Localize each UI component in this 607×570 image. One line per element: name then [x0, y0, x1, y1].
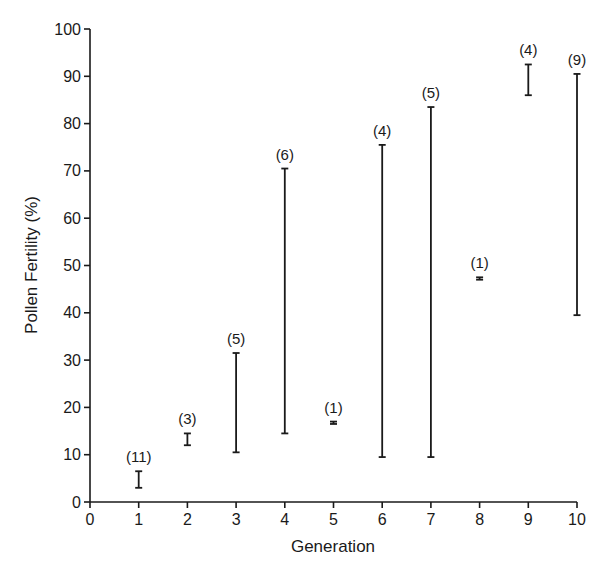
x-tick-label: 0	[86, 511, 95, 528]
range-bar: (4)	[373, 122, 391, 457]
y-tick-label: 80	[63, 115, 81, 132]
y-tick-label: 0	[72, 494, 81, 511]
x-tick-label: 10	[568, 511, 586, 528]
pollen-fertility-chart: 0102030405060708090100012345678910 (11)(…	[0, 0, 607, 570]
y-tick-label: 40	[63, 304, 81, 321]
range-bar: (9)	[568, 51, 586, 315]
range-bar: (3)	[178, 410, 196, 445]
sample-size-label: (1)	[324, 399, 342, 416]
y-tick-label: 90	[63, 68, 81, 85]
x-tick-label: 4	[280, 511, 289, 528]
sample-size-label: (4)	[519, 41, 537, 58]
sample-size-label: (11)	[126, 448, 152, 465]
x-axis-title: Generation	[291, 537, 375, 556]
range-bar: (1)	[470, 254, 488, 279]
sample-size-label: (9)	[568, 51, 586, 68]
sample-size-label: (5)	[227, 330, 245, 347]
y-tick-label: 50	[63, 257, 81, 274]
y-tick-label: 60	[63, 210, 81, 227]
y-axis-title: Pollen Fertility (%)	[22, 196, 41, 334]
sample-size-label: (3)	[178, 410, 196, 427]
x-tick-label: 9	[524, 511, 533, 528]
range-bar: (4)	[519, 41, 537, 95]
sample-size-label: (4)	[373, 122, 391, 139]
y-tick-label: 20	[63, 399, 81, 416]
x-tick-label: 8	[475, 511, 484, 528]
x-tick-label: 1	[134, 511, 143, 528]
y-tick-label: 30	[63, 352, 81, 369]
sample-size-label: (6)	[276, 146, 294, 163]
x-tick-label: 7	[426, 511, 435, 528]
range-bar: (5)	[227, 330, 245, 452]
sample-size-label: (1)	[470, 254, 488, 271]
data-ranges: (11)(3)(5)(6)(1)(4)(5)(1)(4)(9)	[126, 41, 586, 487]
range-bar: (5)	[422, 84, 440, 457]
range-bar: (1)	[324, 399, 342, 424]
range-bar: (11)	[126, 448, 152, 488]
x-tick-label: 6	[378, 511, 387, 528]
x-tick-label: 5	[329, 511, 338, 528]
y-tick-label: 10	[63, 446, 81, 463]
y-tick-label: 100	[54, 21, 81, 38]
x-tick-label: 2	[183, 511, 192, 528]
x-tick-label: 3	[232, 511, 241, 528]
sample-size-label: (5)	[422, 84, 440, 101]
y-tick-label: 70	[63, 162, 81, 179]
range-bar: (6)	[276, 146, 294, 434]
